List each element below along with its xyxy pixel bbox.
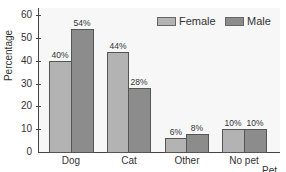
bar-cat-male xyxy=(128,88,151,153)
bar-cat-female xyxy=(107,52,129,153)
y-label-0: 0 xyxy=(10,147,32,157)
y-tick-20 xyxy=(36,106,41,107)
legend-label-male: Male xyxy=(247,15,271,27)
y-tick-30 xyxy=(36,84,41,85)
value-label-other-male: 8% xyxy=(182,123,212,133)
y-tick-40 xyxy=(36,61,41,62)
value-label-cat-female: 44% xyxy=(103,41,133,51)
y-label-40: 40 xyxy=(10,56,32,66)
y-label-30: 30 xyxy=(10,79,32,89)
y-tick-10 xyxy=(36,129,41,130)
bar-other-female xyxy=(165,138,187,153)
value-label-dog-female: 40% xyxy=(45,50,75,60)
y-label-50: 50 xyxy=(10,33,32,43)
y-tick-60 xyxy=(36,15,41,16)
legend-swatch-female xyxy=(157,17,176,26)
value-label-cat-male: 28% xyxy=(124,77,154,87)
value-label-dog-male: 54% xyxy=(67,18,97,28)
x-axis-title: Pet xyxy=(262,165,277,172)
bar-dog-male xyxy=(71,29,94,153)
x-label-other: Other xyxy=(157,155,217,166)
y-label-10: 10 xyxy=(10,124,32,134)
x-label-cat: Cat xyxy=(99,155,159,166)
y-label-60: 60 xyxy=(10,10,32,20)
value-label-nopet-male: 10% xyxy=(240,118,270,128)
legend-label-female: Female xyxy=(179,15,216,27)
bar-dog-female xyxy=(49,61,72,153)
legend-swatch-male xyxy=(225,17,244,26)
x-label-dog: Dog xyxy=(41,155,101,166)
bar-nopet-male xyxy=(244,129,267,153)
y-tick-50 xyxy=(36,38,41,39)
bar-nopet-female xyxy=(222,129,245,153)
y-label-20: 20 xyxy=(10,101,32,111)
y-axis-line xyxy=(38,8,39,152)
